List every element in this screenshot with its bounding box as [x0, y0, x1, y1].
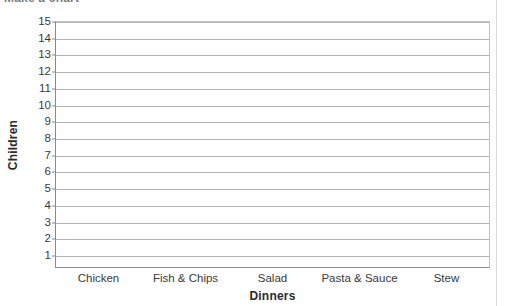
y-axis-tick-mark	[52, 139, 56, 140]
y-axis-tick-label: 15	[38, 16, 51, 28]
y-axis-tick-mark	[52, 155, 56, 156]
page-border-rule	[496, 0, 497, 306]
y-axis-tick-label: 1	[45, 250, 51, 262]
bar-chart: Children 151413121110987654321 ChickenFi…	[0, 0, 496, 306]
y-axis-tick-mark	[52, 38, 56, 39]
y-axis-tick-label: 10	[38, 100, 51, 112]
y-axis-tick-label: 8	[45, 133, 51, 145]
y-axis-tick-mark	[52, 239, 56, 240]
y-axis-tick-mark	[52, 22, 56, 23]
y-axis-tick-label: 6	[45, 167, 51, 179]
y-axis-ticks: 151413121110987654321	[56, 22, 489, 267]
y-axis-tick-label: 7	[45, 150, 51, 162]
y-axis-tick-mark	[52, 55, 56, 56]
x-axis-tick-label: Pasta & Sauce	[316, 272, 403, 284]
y-axis-tick-label: 5	[45, 183, 51, 195]
y-axis-tick-mark	[52, 88, 56, 89]
y-axis-tick-mark	[52, 189, 56, 190]
y-axis-tick-label: 13	[38, 50, 51, 62]
y-axis-tick-label: 14	[38, 33, 51, 45]
x-axis-tick-label: Fish & Chips	[142, 272, 229, 284]
x-axis-tick-label: Stew	[403, 272, 490, 284]
y-axis-tick-mark	[52, 122, 56, 123]
x-axis-tick-label: Salad	[229, 272, 316, 284]
y-axis-tick-mark	[52, 222, 56, 223]
x-axis-tick-label: Chicken	[55, 272, 142, 284]
y-axis-tick-label: 2	[45, 234, 51, 246]
y-axis-tick-mark	[52, 72, 56, 73]
y-axis-title: Children	[2, 21, 24, 268]
y-axis-tick-mark	[52, 205, 56, 206]
y-axis-tick-mark	[52, 172, 56, 173]
y-axis-tick-label: 9	[45, 117, 51, 129]
y-axis-tick-label: 4	[45, 200, 51, 212]
y-axis-tick-label: 11	[39, 83, 51, 95]
x-axis-title: Dinners	[55, 289, 490, 303]
y-axis-tick-mark	[52, 256, 56, 257]
x-axis-tick-labels: ChickenFish & ChipsSaladPasta & SauceSte…	[55, 272, 490, 284]
y-axis-title-text: Children	[6, 119, 20, 169]
y-axis-tick-label: 3	[45, 217, 51, 229]
y-axis-tick-mark	[52, 105, 56, 106]
y-axis-tick-label: 12	[38, 66, 51, 78]
plot-area: 151413121110987654321	[55, 21, 490, 268]
